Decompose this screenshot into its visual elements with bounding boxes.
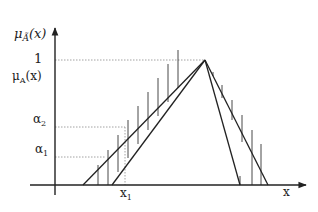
membership-edges [83,60,268,185]
left-hatching [98,50,178,185]
tick-one-label: 1 [34,51,42,66]
mu-a-label: μA(x) [12,69,42,85]
y-axis-label: μÃ(x) [14,26,46,43]
guide-lines [55,60,205,185]
alpha2-label: α2 [33,112,46,128]
x1-label: x1 [120,186,132,202]
alpha1-label: α1 [35,142,48,158]
fuzzy-membership-diagram: μÃ(x) 1 μA(x) α2 α1 x1 x [0,0,318,212]
right-inner-edge [205,60,240,185]
left-outer-edge [83,60,205,185]
x-axis-label: x [283,185,290,199]
right-outer-edge [205,60,268,185]
left-inner-edge [112,60,205,185]
